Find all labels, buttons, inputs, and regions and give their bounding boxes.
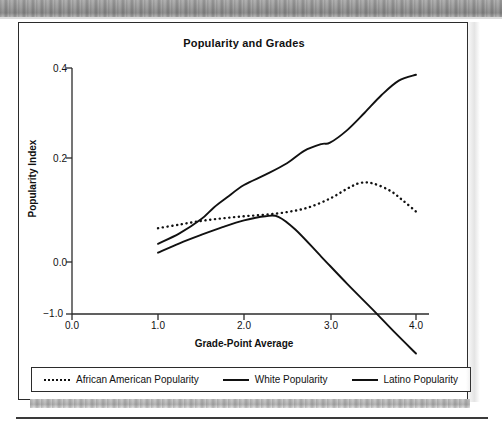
series-line-latino-popularity	[158, 215, 416, 353]
y-axis-ticks	[66, 68, 72, 314]
figure-frame: Popularity and Grades Popularity Index G…	[18, 22, 468, 400]
legend-entry-african-american[interactable]: African American Popularity	[44, 374, 199, 385]
chart-axes	[66, 68, 429, 320]
legend-entry-latino[interactable]: Latino Popularity	[352, 374, 459, 385]
legend-label-latino: Latino Popularity	[384, 374, 459, 385]
legend-swatch-dotted-icon	[44, 379, 70, 381]
chart-series-group	[158, 75, 416, 354]
scan-artifact-top	[0, 0, 502, 18]
chart-canvas	[19, 23, 469, 401]
series-line-white-popularity	[158, 75, 416, 244]
scan-artifact-right	[466, 22, 480, 402]
legend-label-african-american: African American Popularity	[76, 374, 199, 385]
scan-artifact-top-edge	[0, 17, 502, 19]
scan-artifact-bottom	[30, 399, 470, 408]
chart-legend: African American Popularity White Popula…	[31, 367, 471, 392]
legend-swatch-solid-latino-icon	[352, 379, 378, 381]
page-rule	[16, 417, 488, 419]
legend-swatch-solid-white-icon	[223, 379, 249, 381]
legend-label-white: White Popularity	[255, 374, 328, 385]
plot-area: Popularity Index Grade-Point Average 0.4…	[19, 23, 469, 401]
x-axis-ticks	[72, 314, 416, 320]
legend-entry-white[interactable]: White Popularity	[223, 374, 328, 385]
